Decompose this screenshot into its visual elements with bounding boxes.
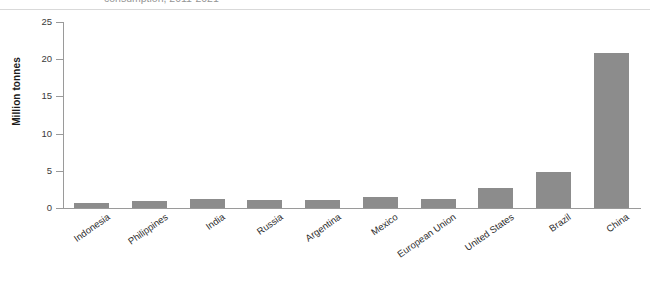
bar[interactable]: [132, 201, 167, 208]
y-axis-tick-label: 15: [26, 91, 52, 101]
y-axis-tick-label: 20: [26, 54, 52, 64]
y-axis-tick-value: 5: [28, 166, 52, 176]
bar[interactable]: [536, 172, 571, 208]
bar[interactable]: [247, 200, 282, 208]
x-axis-line: [63, 208, 641, 209]
y-axis-tick-value: 25: [28, 17, 52, 27]
y-axis-title: Million tonnes: [11, 42, 22, 142]
plot-area: [63, 22, 640, 208]
bar-chart: Million tonnes 0510152025 IndonesiaPhili…: [0, 0, 650, 287]
bar[interactable]: [190, 199, 225, 208]
y-axis-tick-label: 10: [26, 129, 52, 139]
bar[interactable]: [74, 203, 109, 208]
bar[interactable]: [594, 53, 629, 208]
y-axis-tick-value: 0: [28, 203, 52, 213]
y-axis-tick-value: 15: [28, 91, 52, 101]
y-axis-tick-label: 0: [26, 203, 52, 213]
bar[interactable]: [305, 200, 340, 208]
y-axis-tick-label: 25: [26, 17, 52, 27]
y-axis-tick-label: 5: [26, 166, 52, 176]
y-axis-tick-value: 10: [28, 129, 52, 139]
y-axis-tick-value: 20: [28, 54, 52, 64]
x-axis-label: Indonesia: [0, 212, 111, 287]
bar[interactable]: [478, 188, 513, 208]
bar[interactable]: [363, 197, 398, 208]
y-axis-tick: [56, 208, 64, 209]
bar[interactable]: [421, 199, 456, 208]
